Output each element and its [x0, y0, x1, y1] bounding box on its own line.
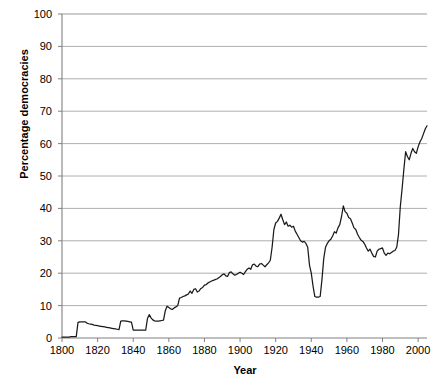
- y-axis-tick-marks: [58, 14, 62, 338]
- plot-area: [0, 0, 440, 386]
- x-axis-tick-marks: [62, 338, 418, 342]
- gridlines: [62, 14, 427, 306]
- chart-container: Percentage democracies Year 010203040506…: [0, 0, 440, 386]
